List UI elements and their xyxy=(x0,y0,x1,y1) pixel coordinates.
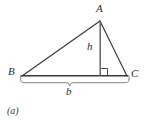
vertex-label-b: B xyxy=(8,66,15,77)
vertex-label-a: A xyxy=(96,3,103,14)
right-angle-marker xyxy=(101,69,108,76)
figure-container: A B C h b (a) xyxy=(0,0,145,125)
altitude-label-h: h xyxy=(87,41,93,52)
figure-caption: (a) xyxy=(7,106,19,116)
vertex-label-c: C xyxy=(131,68,138,79)
triangle-side-ac xyxy=(100,21,127,76)
base-label-b: b xyxy=(66,86,72,97)
geometry-diagram-svg xyxy=(0,0,145,125)
base-brace xyxy=(21,79,130,87)
